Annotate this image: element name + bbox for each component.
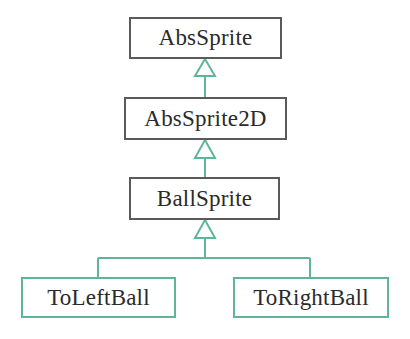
generalization-arrow-icon (195, 140, 215, 158)
generalization-arrow-icon (195, 220, 215, 238)
class-diagram: AbsSprite AbsSprite2D BallSprite ToLeftB… (0, 0, 410, 339)
class-name: AbsSprite2D (144, 106, 266, 132)
class-name: ToLeftBall (47, 285, 150, 311)
class-toleftball: ToLeftBall (21, 277, 176, 318)
class-name: BallSprite (157, 186, 252, 212)
class-ballsprite: BallSprite (129, 177, 280, 220)
class-abssprite: AbsSprite (129, 17, 282, 59)
class-name: AbsSprite (159, 25, 253, 51)
class-torightball: ToRightBall (233, 277, 389, 318)
class-abssprite2d: AbsSprite2D (124, 97, 287, 140)
class-name: ToRightBall (253, 285, 369, 311)
generalization-arrow-icon (195, 59, 215, 76)
